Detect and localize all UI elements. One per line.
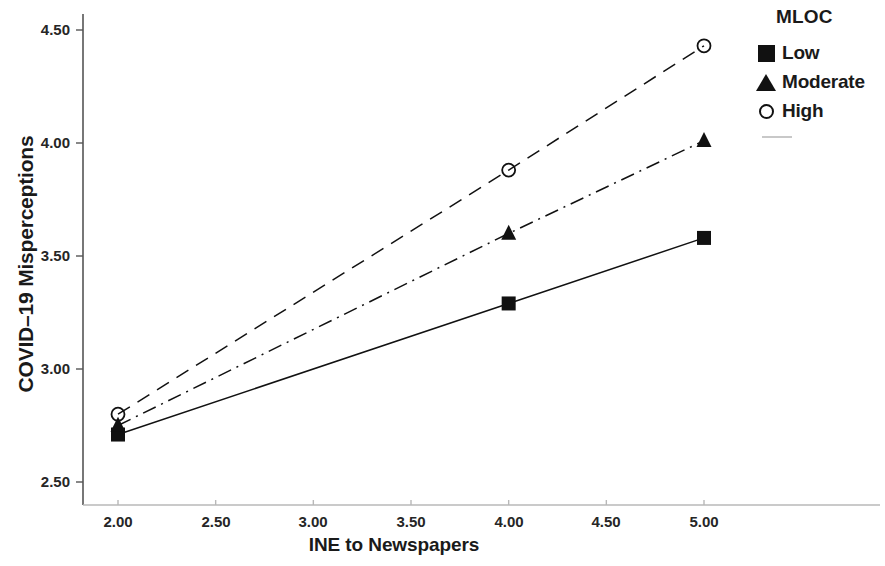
- filled-square-icon: [753, 40, 779, 66]
- chart-container: COVID–19 Misperceptions 4.50 4.00 3.50 3…: [0, 0, 885, 566]
- legend-label-moderate: Moderate: [782, 71, 865, 93]
- series-high: [112, 39, 711, 420]
- data-point-low-1: [502, 296, 516, 310]
- legend-label-high: High: [782, 100, 823, 122]
- data-point-moderate-1: [501, 225, 516, 240]
- data-point-moderate-2: [697, 132, 712, 147]
- legend-item-high[interactable]: High: [753, 98, 823, 124]
- series-line-moderate: [118, 141, 704, 426]
- series-line-low: [118, 238, 704, 435]
- series-moderate: [111, 132, 712, 432]
- legend-item-low[interactable]: Low: [753, 40, 819, 66]
- series-low: [111, 231, 711, 442]
- data-series-layer: [111, 39, 712, 441]
- open-circle-icon: [753, 98, 779, 124]
- legend-line-swatch-icon: [762, 136, 792, 138]
- series-line-high: [118, 46, 704, 414]
- legend-item-moderate[interactable]: Moderate: [753, 69, 865, 95]
- y-axis-ticks: [76, 30, 83, 482]
- legend-title: MLOC: [776, 6, 833, 28]
- data-point-low-2: [697, 231, 711, 245]
- legend-label-low: Low: [782, 42, 819, 64]
- filled-triangle-icon: [753, 69, 779, 95]
